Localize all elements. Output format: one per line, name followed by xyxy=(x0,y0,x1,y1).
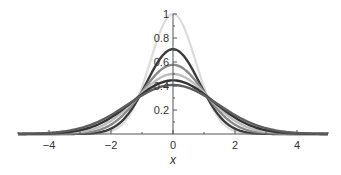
x-axis-label: x xyxy=(169,153,177,167)
y-tick-label: 0.2 xyxy=(154,104,169,116)
x-tick-label: −4 xyxy=(43,139,56,151)
y-tick-label: 0.8 xyxy=(154,32,169,44)
y-tick-label: 1 xyxy=(163,8,169,20)
x-tick-label: 4 xyxy=(294,139,300,151)
axes: −4−2024 0.20.40.60.81 xyxy=(18,8,328,151)
x-tick-label: 0 xyxy=(170,139,176,151)
chart: −4−2024 0.20.40.60.81 x xyxy=(0,0,341,175)
x-tick-label: 2 xyxy=(232,139,238,151)
x-tick-label: −2 xyxy=(105,139,118,151)
y-tick-label: 0.6 xyxy=(154,56,169,68)
y-tick-label: 0.4 xyxy=(154,80,169,92)
